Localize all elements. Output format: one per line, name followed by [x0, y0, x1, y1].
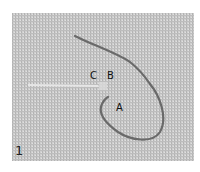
label-a: A: [116, 102, 123, 113]
needle-point: [99, 82, 107, 90]
straight-stitch-thread: [28, 85, 98, 86]
label-c: C: [90, 70, 97, 81]
step-number: 1: [15, 143, 23, 158]
stitch-illustration: C B A 1: [0, 0, 200, 172]
label-b: B: [107, 70, 114, 81]
